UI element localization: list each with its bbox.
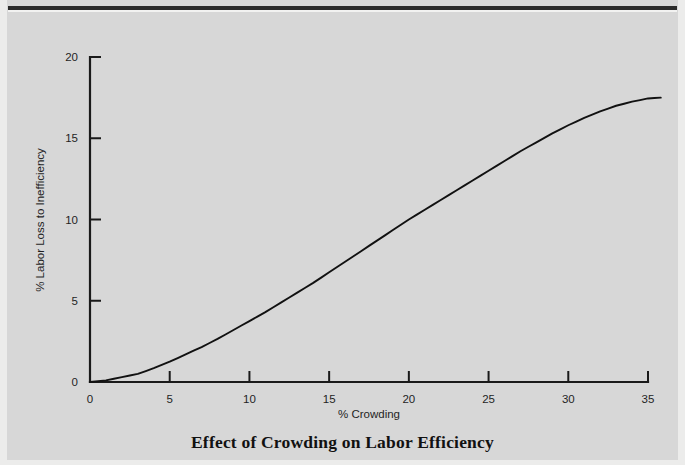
y-tick-label: 20 [65,51,78,63]
x-tick-label: 10 [243,393,256,405]
line-chart: 05101520 05101520253035 % Labor Loss to … [0,0,685,465]
y-tick-label: 5 [72,295,78,307]
x-tick-label: 30 [562,393,575,405]
y-axis-tick-labels: 05101520 [65,51,78,388]
x-tick-label: 35 [642,393,655,405]
x-axis-ticks [90,371,648,382]
y-tick-label: 15 [65,132,78,144]
x-tick-label: 0 [87,393,93,405]
y-axis-ticks [90,57,101,382]
y-tick-label: 0 [72,376,78,388]
x-tick-label: 5 [167,393,173,405]
x-tick-label: 15 [323,393,336,405]
y-axis-title: % Labor Loss to Inefficiency [34,148,46,292]
x-axis-title: % Crowding [338,408,400,420]
data-series-line [90,98,661,382]
chart-figure: 05101520 05101520253035 % Labor Loss to … [0,0,685,465]
x-tick-label: 25 [482,393,495,405]
y-tick-label: 10 [65,214,78,226]
plot-area: 05101520 05101520253035 % Labor Loss to … [0,0,685,465]
x-tick-label: 20 [402,393,415,405]
chart-title: Effect of Crowding on Labor Efficiency [0,432,685,453]
x-axis-tick-labels: 05101520253035 [87,393,655,405]
